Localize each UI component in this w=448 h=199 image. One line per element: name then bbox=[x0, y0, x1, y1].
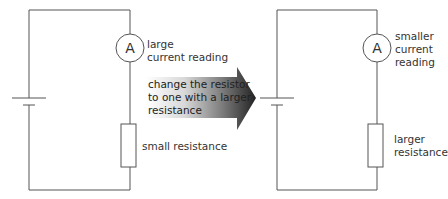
right-circuit-wire bbox=[277, 105, 377, 190]
right-circuit bbox=[260, 10, 391, 190]
left-circuit-wire bbox=[29, 105, 130, 190]
left-circuit bbox=[12, 10, 144, 190]
right-resistor-label-line1: larger bbox=[394, 133, 448, 146]
right-ammeter-label: smaller current reading bbox=[395, 30, 435, 69]
left-ammeter-label-line2: current reading bbox=[147, 51, 228, 64]
arrow-caption-line3: resistance bbox=[148, 104, 251, 117]
left-ammeter-label-line1: large bbox=[147, 38, 228, 51]
right-ammeter-label-line1: smaller bbox=[395, 30, 435, 43]
arrow-caption-line1: change the resistor bbox=[148, 78, 251, 91]
left-resistor-label: small resistance bbox=[142, 140, 227, 153]
arrow-caption: change the resistor to one with a larger… bbox=[148, 78, 251, 117]
left-circuit-wire bbox=[29, 10, 130, 92]
right-ammeter-symbol: A bbox=[372, 40, 382, 56]
right-circuit-wire bbox=[277, 10, 377, 92]
resistor-icon bbox=[368, 124, 383, 167]
right-ammeter-label-line3: reading bbox=[395, 56, 435, 69]
right-ammeter-label-line2: current bbox=[395, 43, 435, 56]
resistor-icon bbox=[121, 124, 136, 167]
right-resistor-label: larger resistance bbox=[394, 133, 448, 159]
left-ammeter-symbol: A bbox=[125, 40, 135, 56]
left-ammeter-label: large current reading bbox=[147, 38, 228, 64]
right-resistor-label-line2: resistance bbox=[394, 146, 448, 159]
arrow-caption-line2: to one with a larger bbox=[148, 91, 251, 104]
